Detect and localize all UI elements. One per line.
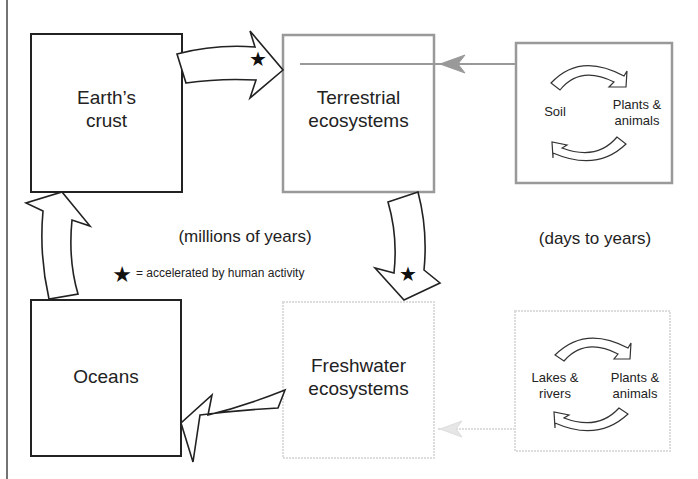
soil-cycle-plants-line2: animals [602, 113, 672, 129]
lakes-rivers-line1: Lakes & [520, 370, 590, 386]
freshwater-line1: Freshwater [283, 355, 434, 378]
soil-label: Soil [530, 104, 580, 120]
star-icon: ★ [249, 47, 267, 71]
crust-to-terrestrial-arrow [177, 31, 283, 98]
earths-crust-label: Earth’s crust [31, 87, 182, 133]
terrestrial-line2: ecosystems [283, 110, 434, 133]
lake-cycle-plants-line1: Plants & [600, 370, 670, 386]
soil-cycle-plants-line1: Plants & [602, 97, 672, 113]
lakes-rivers-line2: rivers [520, 386, 590, 402]
geological-timescale-label: (millions of years) [150, 227, 340, 247]
terrestrial-line1: Terrestrial [283, 87, 434, 110]
lake-cycle-plants-line2: animals [600, 386, 670, 402]
legend-star-icon: ★ [112, 262, 132, 287]
oceans-label: Oceans [31, 366, 181, 389]
freshwater-label: Freshwater ecosystems [283, 355, 434, 401]
lakes-rivers-label: Lakes & rivers [520, 370, 590, 401]
oceans-to-crust-arrow [26, 192, 90, 299]
freshwater-to-oceans-arrow [181, 390, 285, 462]
biological-timescale-label: (days to years) [520, 229, 670, 249]
freshwater-line2: ecosystems [283, 378, 434, 401]
star-icon: ★ [399, 262, 417, 286]
lake-to-freshwater-arrow [438, 421, 515, 437]
lake-cycle-plants-label: Plants & animals [600, 370, 670, 401]
terrestrial-label: Terrestrial ecosystems [283, 87, 434, 133]
soil-cycle-plants-label: Plants & animals [602, 97, 672, 128]
legend-text: = accelerated by human activity [136, 266, 356, 280]
earths-crust-line1: Earth’s [31, 87, 182, 110]
earths-crust-line2: crust [31, 110, 182, 133]
